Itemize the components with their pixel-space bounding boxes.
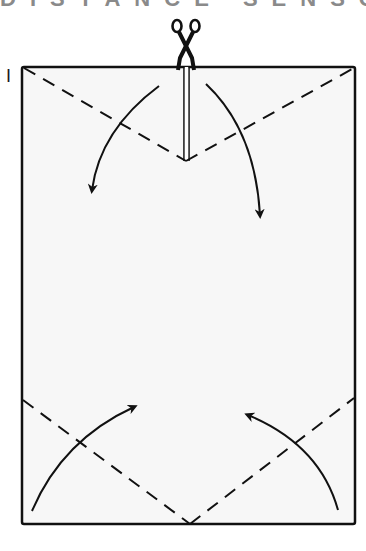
cut-slit [184,67,189,161]
folding-diagram [0,0,366,551]
scissors-icon [173,20,200,70]
